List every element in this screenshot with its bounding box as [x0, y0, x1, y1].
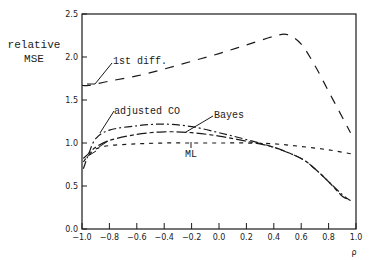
line-chart: 0.00.51.01.52.02.5−1.0−0.8−0.6−0.4−0.20.… — [0, 0, 374, 260]
x-tick-label: 0.0 — [213, 233, 226, 242]
x-tick-label: 1.0 — [350, 233, 363, 242]
x-axis-label: ρ — [351, 248, 356, 257]
y-tick-label: 2.5 — [65, 10, 78, 19]
annotation-1st-diff-leader — [87, 63, 112, 84]
x-tick-label: 0.4 — [267, 233, 280, 242]
annotation-bayes: Bayes — [214, 110, 244, 121]
plot-frame — [82, 14, 356, 229]
x-tick-label: −0.8 — [100, 233, 119, 242]
annotation-1st-diff: 1st diff. — [113, 56, 167, 67]
x-tick-label: −1.0 — [72, 233, 91, 242]
x-tick-label: −0.4 — [154, 233, 173, 242]
annotation-adjusted-co: adjusted CO — [114, 106, 180, 117]
annotation-bayes-leader — [186, 116, 213, 132]
x-tick-label: −0.6 — [127, 233, 146, 242]
y-tick-label: 2.0 — [65, 53, 78, 62]
series-line-ml — [83, 143, 353, 162]
x-tick-label: 0.6 — [295, 233, 308, 242]
x-tick-label: 0.2 — [240, 233, 253, 242]
series-line-bayes — [83, 132, 347, 199]
x-tick-label: 0.8 — [322, 233, 335, 242]
y-tick-label: 1.5 — [65, 96, 78, 105]
y-tick-label: 0.5 — [65, 182, 78, 191]
y-tick-label: 1.0 — [65, 139, 78, 148]
annotation-ml: ML — [185, 149, 197, 160]
x-tick-label: −0.2 — [182, 233, 201, 242]
